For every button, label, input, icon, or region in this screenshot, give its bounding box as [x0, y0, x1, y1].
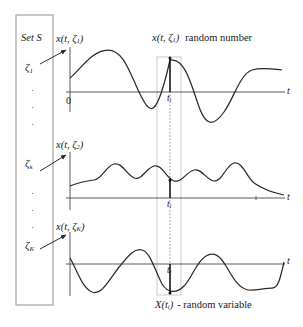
plot-2-ti-label: ti — [167, 200, 171, 210]
plot-1-ti-label: ti — [167, 94, 171, 104]
set-dots-upper: · · · — [31, 86, 34, 129]
set-element-zeta-k: ζk — [25, 158, 32, 170]
set-element-zeta-K: ζK — [25, 240, 34, 252]
zeta-k-subscript: k — [29, 163, 32, 170]
set-element-zeta-1: ζ1 — [25, 62, 33, 74]
plot-2-func: x(t, ζ — [56, 139, 77, 150]
plot-3-ti-label: ti — [167, 266, 171, 276]
bottom-annotation: X(ti)- random variable — [155, 300, 252, 311]
plot-3-func: x(t, ζ — [56, 221, 77, 232]
plot-2-func-close: ) — [80, 139, 84, 150]
plot-1-t-axis-label: t — [287, 86, 290, 96]
plot-1-axis-label: x(t, ζ1) — [56, 34, 83, 45]
plot-2-axis-label: x(t, ζ2) — [56, 140, 83, 151]
set-dots-lower: · · · — [31, 189, 34, 232]
plot-1-origin-label: 0 — [66, 96, 71, 106]
set-s-title: Set S — [21, 33, 42, 44]
plot-3-axis-label: x(t, ζK) — [56, 222, 84, 233]
plot-3-sample-point — [169, 292, 172, 295]
figure-canvas: Set S ζ1 · · · ζk · · · ζK x(t, ζ1) 0 t … — [0, 0, 303, 327]
zeta-1-subscript: 1 — [29, 67, 32, 74]
top-annotation-func: x(t, ζ — [152, 32, 173, 43]
plot-1-sample-point — [169, 57, 172, 60]
dot: · — [31, 86, 34, 95]
top-annotation: x(t, ζ1)random number — [152, 33, 252, 44]
plot-2-t-sub: i — [170, 203, 172, 209]
dot: · — [31, 223, 34, 232]
set-s-box — [16, 15, 53, 305]
dot: · — [31, 103, 34, 112]
bottom-annotation-text: - random variable — [173, 299, 252, 310]
plot-3-t-sub: i — [170, 269, 172, 275]
plot-3-t-axis-label: t — [287, 256, 290, 266]
plot-1-func-close: ) — [80, 33, 84, 44]
dot: · — [31, 120, 34, 129]
plot-2-sample-point — [169, 179, 172, 182]
plot-1-t-sub: i — [170, 97, 172, 103]
plot-1-func: x(t, ζ — [56, 33, 77, 44]
dot: · — [31, 189, 34, 198]
bottom-annotation-func: X(t — [155, 299, 168, 310]
top-annotation-text: random number — [179, 32, 252, 43]
figure-svg — [0, 0, 303, 327]
dot: · — [31, 206, 34, 215]
plot-2-t-axis-label: t — [287, 192, 290, 202]
zeta-K-subscript: K — [29, 245, 34, 252]
plot-3-func-close: ) — [81, 221, 85, 232]
